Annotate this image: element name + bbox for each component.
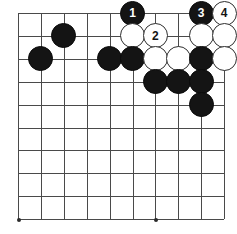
numbered-stone-black-1: 1 — [120, 1, 145, 26]
stone-black — [51, 23, 76, 48]
numbered-stone-white-4: 4 — [212, 1, 237, 26]
stone-black — [97, 46, 122, 71]
stone-white — [166, 46, 191, 71]
stone-white — [212, 46, 237, 71]
move-number: 1 — [129, 7, 136, 19]
stone-black — [189, 92, 214, 117]
move-number: 3 — [198, 7, 205, 19]
stone-black — [28, 46, 53, 71]
numbered-stone-white-2: 2 — [143, 23, 168, 48]
numbered-stone-black-3: 3 — [189, 1, 214, 26]
stone-black — [189, 46, 214, 71]
stone-white — [120, 23, 145, 48]
stone-white — [189, 23, 214, 48]
move-number: 4 — [221, 7, 228, 19]
stone-white — [143, 46, 168, 71]
stone-black — [120, 46, 145, 71]
go-board-diagram: 1342 — [0, 0, 237, 234]
stone-black — [166, 69, 191, 94]
stone-black — [143, 69, 168, 94]
move-number: 2 — [152, 29, 159, 41]
stone-black — [189, 69, 214, 94]
stone-layer: 1342 — [0, 0, 237, 234]
stone-white — [212, 23, 237, 48]
